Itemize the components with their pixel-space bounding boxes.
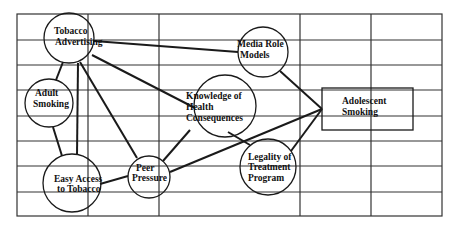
edge-tobacco-media <box>94 41 238 52</box>
node-adolescent-smoking: Adolescent Smoking <box>322 88 413 130</box>
node-label: Adolescent <box>342 96 387 106</box>
node-label: Program <box>248 173 284 183</box>
node-adult-smoking: Adult Smoking <box>25 79 73 127</box>
node-label: Adult <box>35 88 59 98</box>
edge-peer-knowledge <box>163 130 190 161</box>
node-label: Easy Access <box>54 174 103 184</box>
node-label: Tobacco <box>54 26 88 36</box>
node-label: Peer <box>136 163 155 173</box>
node-label: Smoking <box>342 107 378 117</box>
nodes: Tobacco Advertising Adult Smoking Easy A… <box>25 13 413 212</box>
node-knowledge-health: Knowledge of Health Consequences <box>186 75 256 137</box>
node-label: Smoking <box>33 99 69 109</box>
node-label: Knowledge of <box>186 91 243 101</box>
edge-tobacco-easy <box>77 63 78 155</box>
node-label: Health <box>186 102 214 112</box>
node-label: Treatment <box>248 162 291 172</box>
node-media-role-models: Media Role Models <box>237 27 288 77</box>
node-label: Pressure <box>132 173 167 183</box>
edge-easy-peer <box>100 176 128 184</box>
node-label: Legality of <box>248 152 292 162</box>
node-easy-access: Easy Access to Tobacco <box>43 154 103 212</box>
node-label: Models <box>240 50 270 60</box>
influence-diagram: Tobacco Advertising Adult Smoking Easy A… <box>0 0 458 229</box>
node-label: Consequences <box>186 113 243 123</box>
node-label: Media Role <box>237 39 284 49</box>
node-label: to Tobacco <box>57 184 101 194</box>
node-label: Advertising <box>55 37 103 47</box>
node-legality-treatment: Legality of Treatment Program <box>240 139 296 195</box>
edge-tobacco-knowledge <box>92 55 195 108</box>
